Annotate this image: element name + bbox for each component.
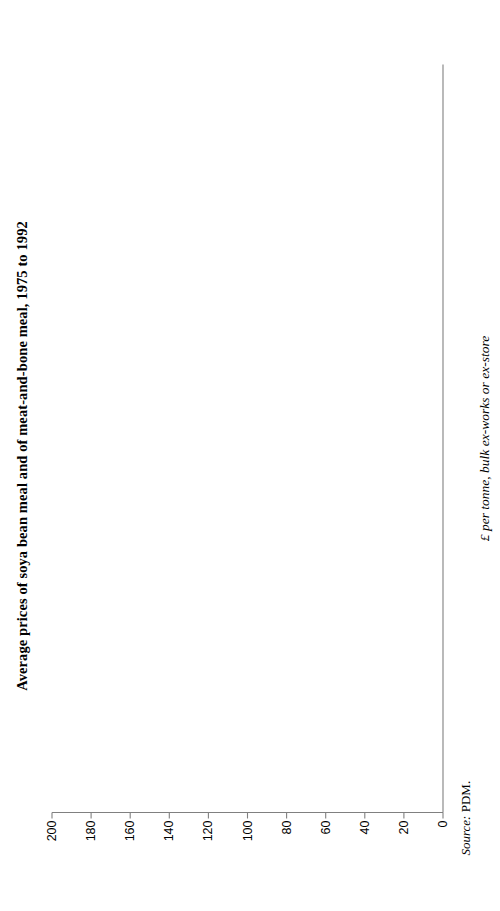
plot-area (52, 64, 443, 812)
source-label: Source: (458, 815, 473, 855)
y-tick-label-200: 200 (45, 820, 59, 862)
figure-stage: Average prices of soya bean meal and of … (0, 0, 500, 911)
y-tick-label-100: 100 (241, 820, 255, 862)
chart-title: Average prices of soya bean meal and of … (14, 0, 31, 911)
source-note: Source: PDM. (458, 780, 474, 855)
y-tick-label-0: 0 (436, 820, 450, 862)
source-value: PDM. (458, 780, 473, 811)
y-tick-label-180: 180 (84, 820, 98, 862)
y-tick-label-140: 140 (162, 820, 176, 862)
y-axis-title: £ per tonne, bulk ex-works or ex-store (477, 335, 493, 540)
y-tick-label-120: 120 (201, 820, 215, 862)
plot-svg (52, 24, 483, 812)
y-tick-label-60: 60 (319, 820, 333, 862)
y-tick-label-80: 80 (280, 820, 294, 862)
y-tick-label-160: 160 (123, 820, 137, 862)
y-tick-label-20: 20 (397, 820, 411, 862)
y-tick-label-40: 40 (358, 820, 372, 862)
